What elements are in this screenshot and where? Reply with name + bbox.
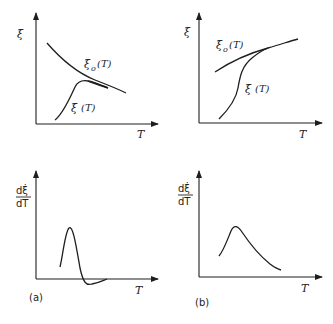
xi0-label: ξ̇ o (T) <box>84 58 112 73</box>
svg-text:dξ̇: dξ̇ <box>16 183 28 196</box>
svg-text:ξ̇: ξ̇ <box>216 39 223 52</box>
svg-text:(T): (T) <box>97 58 112 69</box>
x-axis-label: T <box>299 128 308 141</box>
panel-a-top: ξ̇ T ξ̇ o (T) ξ̇ (T) <box>17 13 158 141</box>
x-axis-label: T <box>301 282 310 295</box>
svg-text:dξ̇: dξ̇ <box>178 181 190 194</box>
caption-a: (a) <box>29 292 43 303</box>
svg-text:o: o <box>91 64 96 73</box>
figure: ξ̇ T ξ̇ o (T) ξ̇ (T) ξ̇ T ξ̇ o (T) ξ̇ (T… <box>0 0 333 324</box>
x-axis-label: T <box>135 284 144 297</box>
xi-label: ξ̇ (T) <box>245 83 270 96</box>
svg-text:dT: dT <box>178 196 191 207</box>
y-axis-label: ξ̇ <box>184 26 191 39</box>
xi-label: ξ̇ (T) <box>71 102 96 115</box>
panel-b-top: ξ̇ T ξ̇ o (T) ξ̇ (T) <box>184 13 322 141</box>
panel-b-bottom: dξ̇ dT T (b) <box>178 171 322 308</box>
svg-text:(T): (T) <box>81 102 96 113</box>
derivative-curve <box>219 227 281 270</box>
panel-a-bottom: dξ̇ dT T (a) <box>16 171 158 303</box>
y-axis-label: dξ̇ dT <box>178 181 193 207</box>
caption-b: (b) <box>195 297 209 308</box>
x-axis-label: T <box>137 128 146 141</box>
svg-text:dT: dT <box>16 198 29 209</box>
xi0-label: ξ̇ o (T) <box>216 39 244 54</box>
y-axis-label: dξ̇ dT <box>16 183 31 209</box>
derivative-curve <box>60 228 107 285</box>
svg-text:o: o <box>223 45 228 54</box>
svg-text:(T): (T) <box>255 83 270 94</box>
svg-text:ξ̇: ξ̇ <box>84 58 91 71</box>
svg-text:ξ̇: ξ̇ <box>71 102 78 115</box>
svg-text:(T): (T) <box>229 39 244 50</box>
xi0-curve <box>215 39 298 72</box>
svg-text:ξ̇: ξ̇ <box>245 83 252 96</box>
y-axis-label: ξ̇ <box>17 28 24 41</box>
xi-curve <box>55 81 108 120</box>
